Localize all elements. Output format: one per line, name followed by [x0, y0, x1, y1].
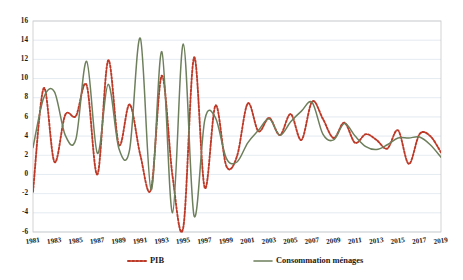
y-axis-tick-label: 4: [24, 132, 28, 140]
chart-container: -6-4-20246810121416 19811983198519871989…: [0, 0, 463, 280]
y-axis-tick-label: 8: [24, 93, 28, 101]
line-chart: -6-4-20246810121416 19811983198519871989…: [0, 0, 463, 280]
y-axis-tick-label: -2: [22, 189, 28, 197]
y-axis-tick-label: 6: [24, 113, 28, 121]
y-axis-tick-label: 2: [24, 151, 28, 159]
y-axis-tick-label: 12: [21, 55, 29, 63]
y-axis-tick-label: 10: [21, 74, 29, 82]
legend-label-consommation-menages: Consommation ménages: [276, 256, 364, 265]
y-axis-tick-label: 14: [21, 36, 29, 44]
legend-label-pib: PIB: [150, 256, 164, 265]
y-axis-tick-label: -4: [22, 208, 28, 216]
y-axis-tick-label: 16: [21, 17, 29, 25]
y-axis-tick-label: 0: [24, 170, 28, 178]
y-axis-tick-label: -6: [22, 228, 28, 236]
